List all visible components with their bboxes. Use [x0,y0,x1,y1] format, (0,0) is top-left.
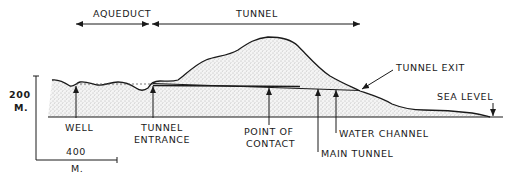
tunnel-entrance-label-line1: TUNNEL [140,122,183,133]
point-of-contact-label-line1: POINT OF [244,126,294,137]
main-tunnel-line [153,86,300,87]
sea-level-label: SEA LEVEL [437,91,493,102]
tunnel-exit-pointer [362,70,393,89]
tunnel-exit-label: TUNNEL EXIT [395,62,465,73]
water-channel-label: WATER CHANNEL [339,128,429,139]
vertical-scale-value: 200 [9,89,31,100]
main-tunnel-label: MAIN TUNNEL [321,148,394,159]
horizontal-scale-value: 400 [66,146,86,157]
well-label: WELL [65,122,93,133]
point-of-contact-label-line2: CONTACT [246,138,295,149]
vertical-scale-unit: M. [14,102,28,113]
aqueduct-label: AQUEDUCT [93,8,151,19]
horizontal-scale-unit: M. [71,163,83,174]
tunnel-label: TUNNEL [235,8,278,19]
diagram-canvas: AQUEDUCT TUNNEL 200 M. 400 M. WELL TUNNE… [0,0,513,180]
tunnel-entrance-label-line2: ENTRANCE [134,134,190,145]
